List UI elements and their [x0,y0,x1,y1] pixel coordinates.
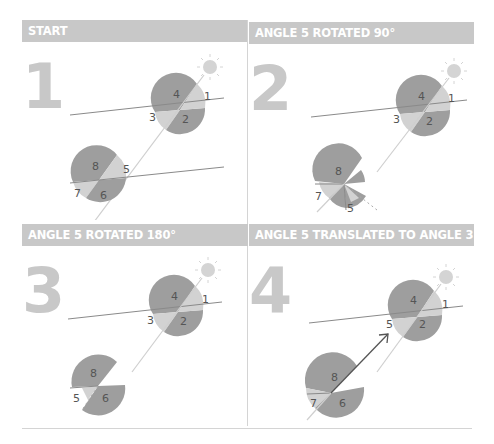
sun-icon [195,257,221,283]
panel-translated: ANGLE 5 TRANSLATED TO ANGLE 3 4 41 52 [249,224,474,428]
step-number: 4 [249,254,292,327]
bottom-intersection: 8 7 6 [305,352,364,420]
svg-text:3: 3 [149,111,156,124]
angles-diagram: 4 41 52 8 7 [249,224,474,428]
sun-icon [441,58,467,84]
bottom-intersection: 8 5 6 [70,355,125,416]
svg-text:2: 2 [180,315,187,328]
svg-text:4: 4 [410,294,417,307]
svg-text:4: 4 [171,290,178,303]
svg-text:1: 1 [202,293,209,306]
angles-diagram: 3 41 32 8 5 [22,224,248,428]
panel-rotated-90: ANGLE 5 ROTATED 90° 2 41 32 [249,22,474,220]
sun-icon [433,264,459,290]
svg-text:2: 2 [426,115,433,128]
bottom-intersection: 8 7 5 [312,143,377,215]
svg-text:7: 7 [310,397,317,410]
svg-text:7: 7 [74,187,81,200]
svg-text:1: 1 [204,90,211,103]
svg-text:1: 1 [448,92,455,105]
svg-text:8: 8 [90,367,97,380]
sun-icon [197,54,223,80]
step-number: 2 [249,52,292,125]
svg-text:8: 8 [335,165,342,178]
step-number: 3 [22,254,65,327]
panel-start: START 1 41 32 [22,20,248,220]
svg-text:4: 4 [418,90,425,103]
svg-text:6: 6 [102,392,109,405]
panel-rotated-180: ANGLE 5 ROTATED 180° 3 41 32 [22,224,248,428]
svg-text:8: 8 [331,371,338,384]
svg-text:4: 4 [173,88,180,101]
svg-text:5: 5 [347,202,354,215]
svg-text:6: 6 [100,189,107,202]
svg-text:6: 6 [339,397,346,410]
svg-text:7: 7 [315,190,322,203]
svg-text:1: 1 [442,298,449,311]
step-number: 1 [22,50,65,123]
svg-text:2: 2 [182,113,189,126]
angles-diagram: 2 41 32 [249,22,474,220]
svg-text:3: 3 [147,314,154,327]
svg-text:5: 5 [73,392,80,405]
svg-text:5: 5 [123,163,130,176]
angles-diagram: 1 41 32 [22,20,248,220]
bottom-intersection: 85 76 [70,145,224,202]
svg-text:3: 3 [393,113,400,126]
svg-text:8: 8 [92,160,99,173]
svg-text:2: 2 [419,318,426,331]
svg-text:5: 5 [386,318,393,331]
divider [22,428,472,429]
